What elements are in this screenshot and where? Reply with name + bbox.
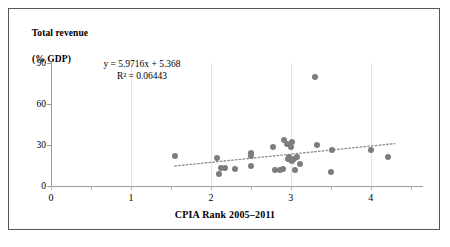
scatter-point: [232, 166, 238, 172]
x-tick-mark: [251, 186, 252, 190]
x-tick-mark: [291, 186, 292, 190]
x-tick-label-4: 4: [356, 192, 386, 203]
x-tick-mark: [371, 186, 372, 190]
scatter-point: [312, 74, 318, 80]
scatter-point: [294, 154, 300, 160]
y-tick-label-0: 0: [24, 181, 46, 191]
chart-figure: Total revenue (% GDP) 0306090 01234 y = …: [0, 0, 450, 247]
x-tick-mark: [211, 186, 212, 190]
scatter-point: [172, 153, 178, 159]
x-tick-label-0: 0: [36, 192, 66, 203]
x-tick-mark: [51, 186, 52, 190]
x-tick-label-1: 1: [116, 192, 146, 203]
scatter-point: [280, 166, 286, 172]
scatter-point: [289, 139, 295, 145]
scatter-point: [248, 153, 254, 159]
y-tick-label-30: 30: [24, 140, 46, 150]
y-tick-label-60: 60: [24, 99, 46, 109]
regression-annotation: y = 5.9716x + 5.368 R² = 0.06443: [72, 58, 212, 82]
scatter-point: [292, 167, 298, 173]
x-tick-label-2: 2: [196, 192, 226, 203]
regression-equation: y = 5.9716x + 5.368: [72, 58, 212, 70]
x-tick-mark: [131, 186, 132, 190]
x-tick-mark: [411, 186, 412, 190]
x-tick-mark: [91, 186, 92, 190]
scatter-point: [216, 171, 222, 177]
x-tick-mark: [171, 186, 172, 190]
x-tick-label-3: 3: [276, 192, 306, 203]
x-axis-title: CPIA Rank 2005–2011: [0, 209, 450, 220]
y-tick-label-90: 90: [24, 58, 46, 68]
y-axis-title-line1: Total revenue: [32, 28, 88, 38]
scatter-point: [222, 165, 228, 171]
x-axis-line: [51, 186, 423, 187]
scatter-point: [368, 147, 374, 153]
r-squared-value: R² = 0.06443: [72, 70, 212, 82]
scatter-point: [328, 169, 334, 175]
x-tick-mark: [331, 186, 332, 190]
